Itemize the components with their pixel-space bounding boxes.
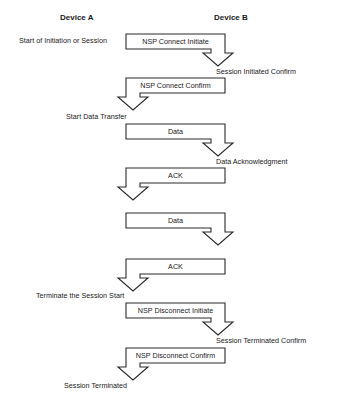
message-label-ack-2: ACK [126, 262, 225, 271]
state-label-start-data-transfer: Start Data Transfer [66, 112, 127, 121]
state-label-session-initiated-confirm: Session Initiated Confirm [216, 67, 296, 76]
message-label-data-2: Data [126, 216, 225, 225]
state-label-session-terminated: Session Terminated [64, 381, 127, 390]
message-label-ack-1: ACK [126, 171, 225, 180]
state-label-data-acknowledgment: Data Acknowledgment [216, 157, 288, 166]
message-label-nsp-disconnect-confirm: NSP Disconnect Confirm [126, 351, 225, 360]
state-label-session-terminated-confirm: Session Terminated Confirm [216, 336, 306, 345]
state-label-terminate-session-start: Terminate the Session Start [36, 291, 124, 300]
message-label-nsp-disconnect-initiate: NSP Disconnect Initiate [126, 306, 225, 315]
session-sequence-diagram: Device A Device B Start of Initiation or… [0, 0, 337, 407]
message-label-nsp-connect-confirm: NSP Connect Confirm [126, 81, 225, 90]
state-label-start-initiation: Start of Initiation or Session [19, 36, 107, 45]
device-b-header: Device B [214, 13, 248, 22]
message-label-data-1: Data [126, 127, 225, 136]
message-arrows [0, 0, 337, 407]
device-a-header: Device A [60, 13, 94, 22]
message-label-nsp-connect-initiate: NSP Connect Initiate [126, 37, 225, 46]
